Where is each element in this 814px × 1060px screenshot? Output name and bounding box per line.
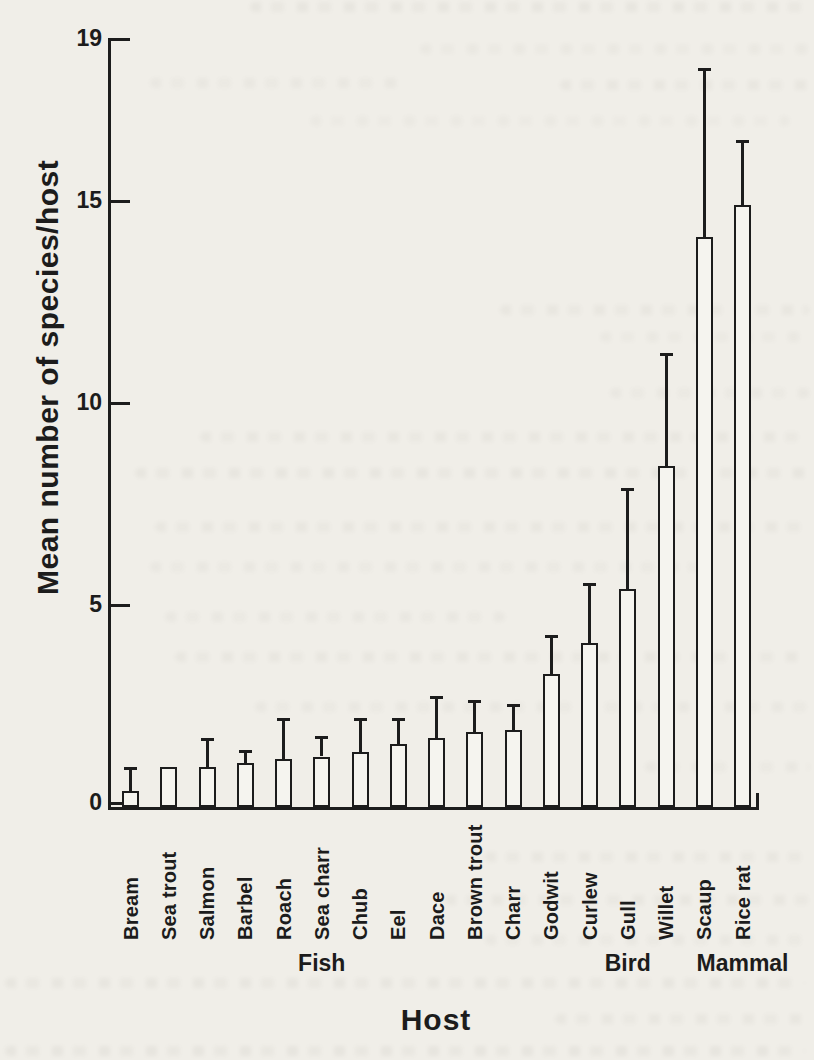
x-label-brown-trout: Brown trout xyxy=(465,824,485,940)
x-label-barbel: Barbel xyxy=(235,877,255,940)
y-tick-label-5: 5 xyxy=(56,593,102,616)
y-tick-5 xyxy=(109,604,130,607)
error-cap-brown-trout xyxy=(468,700,481,703)
error-whisker-willet xyxy=(665,353,668,466)
error-whisker-brown-trout xyxy=(473,700,476,732)
error-cap-curlew xyxy=(583,583,596,586)
x-label-sea-trout: Sea trout xyxy=(159,852,179,940)
bar-eel xyxy=(390,744,407,807)
error-cap-barbel xyxy=(239,750,252,753)
x-axis-title: Host xyxy=(401,1003,472,1037)
bar-barbel xyxy=(237,763,254,807)
error-whisker-bream xyxy=(129,767,132,791)
bar-willet xyxy=(658,466,675,807)
x-label-charr: Charr xyxy=(503,886,523,940)
y-tick-10 xyxy=(109,402,130,405)
x-label-salmon: Salmon xyxy=(197,867,217,940)
error-whisker-salmon xyxy=(206,738,209,766)
bar-gull xyxy=(619,589,636,807)
error-whisker-eel xyxy=(397,718,400,744)
error-whisker-scaup xyxy=(703,68,706,238)
bar-brown-trout xyxy=(466,732,483,807)
bar-dace xyxy=(428,738,445,807)
y-tick-19 xyxy=(109,38,130,41)
x-label-rice-rat: Rice rat xyxy=(733,865,753,940)
bar-curlew xyxy=(581,643,598,807)
bar-scaup xyxy=(696,237,713,807)
x-axis-line xyxy=(108,807,759,810)
x-label-curlew: Curlew xyxy=(580,872,600,940)
error-cap-scaup xyxy=(698,68,711,71)
bar-sea-trout xyxy=(160,767,177,807)
bar-charr xyxy=(505,730,522,807)
error-cap-bream xyxy=(124,767,137,770)
x-label-eel: Eel xyxy=(388,909,408,940)
x-label-roach: Roach xyxy=(274,878,294,940)
error-whisker-curlew xyxy=(588,583,591,644)
error-cap-eel xyxy=(392,718,405,721)
error-cap-charr xyxy=(507,704,520,707)
x-axis-end-stub xyxy=(756,793,759,810)
error-cap-willet xyxy=(660,353,673,356)
error-cap-roach xyxy=(277,718,290,721)
bar-roach xyxy=(275,759,292,807)
y-axis-line xyxy=(108,38,111,810)
bar-bream xyxy=(122,791,139,807)
bar-chart-figure: 19151050 BreamSea troutSalmonBarbelRoach… xyxy=(0,0,814,1060)
error-cap-salmon xyxy=(201,738,214,741)
error-whisker-roach xyxy=(282,718,285,758)
y-tick-15 xyxy=(109,200,130,203)
bar-sea-charr xyxy=(313,757,330,808)
error-cap-rice-rat xyxy=(736,140,749,143)
y-tick-label-19: 19 xyxy=(56,27,102,50)
y-tick-label-0: 0 xyxy=(56,791,102,814)
error-cap-sea-charr xyxy=(315,736,328,739)
error-cap-gull xyxy=(621,488,634,491)
error-whisker-rice-rat xyxy=(741,140,744,205)
bar-godwit xyxy=(543,674,560,807)
bar-rice-rat xyxy=(734,205,751,807)
group-label-fish: Fish xyxy=(298,950,345,977)
group-label-bird: Bird xyxy=(605,950,651,977)
x-label-scaup: Scaup xyxy=(694,879,714,940)
error-cap-chub xyxy=(354,718,367,721)
x-label-dace: Dace xyxy=(427,891,447,940)
x-label-gull: Gull xyxy=(618,900,638,940)
error-whisker-charr xyxy=(512,704,515,730)
error-whisker-godwit xyxy=(550,635,553,673)
x-label-godwit: Godwit xyxy=(541,871,561,940)
error-whisker-chub xyxy=(359,718,362,752)
error-whisker-sea-charr xyxy=(320,736,323,756)
error-whisker-gull xyxy=(626,488,629,589)
scanned-page: 19151050 BreamSea troutSalmonBarbelRoach… xyxy=(0,0,814,1060)
error-cap-godwit xyxy=(545,635,558,638)
group-label-mammal: Mammal xyxy=(696,950,788,977)
error-whisker-dace xyxy=(435,696,438,738)
error-cap-dace xyxy=(430,696,443,699)
x-label-willet: Willet xyxy=(656,886,676,940)
x-label-bream: Bream xyxy=(121,877,141,940)
bar-chub xyxy=(352,752,369,807)
x-label-chub: Chub xyxy=(350,888,370,940)
bar-salmon xyxy=(199,767,216,807)
x-label-sea-charr: Sea charr xyxy=(312,847,332,940)
